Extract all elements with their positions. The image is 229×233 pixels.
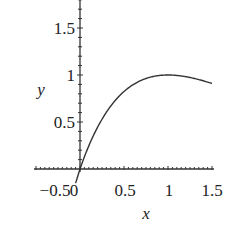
x-tick-label: 1	[165, 181, 174, 200]
x-tick-label: 1.5	[201, 181, 222, 200]
y-tick-label: 1.5	[54, 19, 75, 38]
x-tick-label: −0.5	[40, 181, 71, 200]
x-tick-label: 0.5	[114, 181, 135, 200]
x-axis-label: x	[141, 204, 150, 223]
line-chart: −0.5 0 0.5 1 1.5 0.5 1 1.5 x y	[0, 0, 229, 233]
y-tick-label: 1	[67, 66, 76, 85]
y-axis-label: y	[35, 80, 45, 99]
data-series-line	[80, 75, 212, 169]
y-tick-label: 0.5	[54, 113, 75, 132]
x-tick-label: 0	[70, 181, 79, 200]
